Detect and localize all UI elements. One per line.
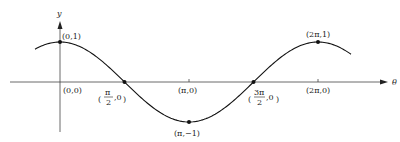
point-three-half-pi-0 [252,80,256,84]
label-0-1: (0,1) [62,32,81,41]
svg-text:,0: ,0 [114,93,122,102]
svg-text:2: 2 [257,98,262,107]
label-two-pi-0: (2π,0) [306,86,330,95]
svg-text:2: 2 [106,98,111,107]
cosine-diagram: y θ (0,1) (0,0) (π,0) (π,−1) (2π,1) (2π,… [0,0,400,142]
y-axis-arrow-icon [58,21,63,29]
svg-text:π: π [105,88,110,97]
svg-text:(: ( [98,95,101,104]
y-axis-label: y [56,9,62,18]
label-pi-minus-1: (π,−1) [174,129,200,138]
label-two-pi-1: (2π,1) [306,30,330,39]
point-half-pi-0 [123,80,127,84]
x-axis-label: θ [392,78,397,87]
svg-text:(: ( [248,95,251,104]
label-three-half-pi-0: ( 3π 2 ,0 ) [248,88,279,107]
label-pi-0: (π,0) [178,86,197,95]
svg-text:,0: ,0 [266,93,274,102]
point-pi-minus-1 [187,120,191,124]
x-axis-arrow-icon [380,80,388,85]
svg-text:): ) [123,95,126,104]
label-half-pi-0: ( π 2 ,0 ) [98,88,126,107]
svg-text:): ) [276,95,279,104]
svg-text:3π: 3π [254,88,264,97]
label-0-0: (0,0) [63,86,82,95]
point-two-pi-1 [316,40,320,44]
